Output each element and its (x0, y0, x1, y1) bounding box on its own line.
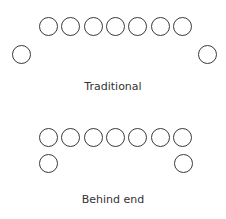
player-circle (61, 128, 80, 147)
player-circle (39, 128, 58, 147)
player-circle (106, 128, 125, 147)
label-behind-end: Behind end (0, 193, 226, 206)
player-circle (174, 154, 193, 173)
player-circle (151, 128, 170, 147)
label-traditional: Traditional (0, 80, 226, 93)
player-circle (106, 17, 125, 36)
player-circle (61, 17, 80, 36)
player-circle (84, 17, 103, 36)
player-circle (151, 17, 170, 36)
player-circle (173, 128, 192, 147)
player-circle (84, 128, 103, 147)
player-circle (39, 154, 58, 173)
player-circle (12, 45, 31, 64)
player-circle (173, 17, 192, 36)
player-circle (128, 128, 147, 147)
player-circle (39, 17, 58, 36)
player-circle (198, 45, 217, 64)
player-circle (128, 17, 147, 36)
